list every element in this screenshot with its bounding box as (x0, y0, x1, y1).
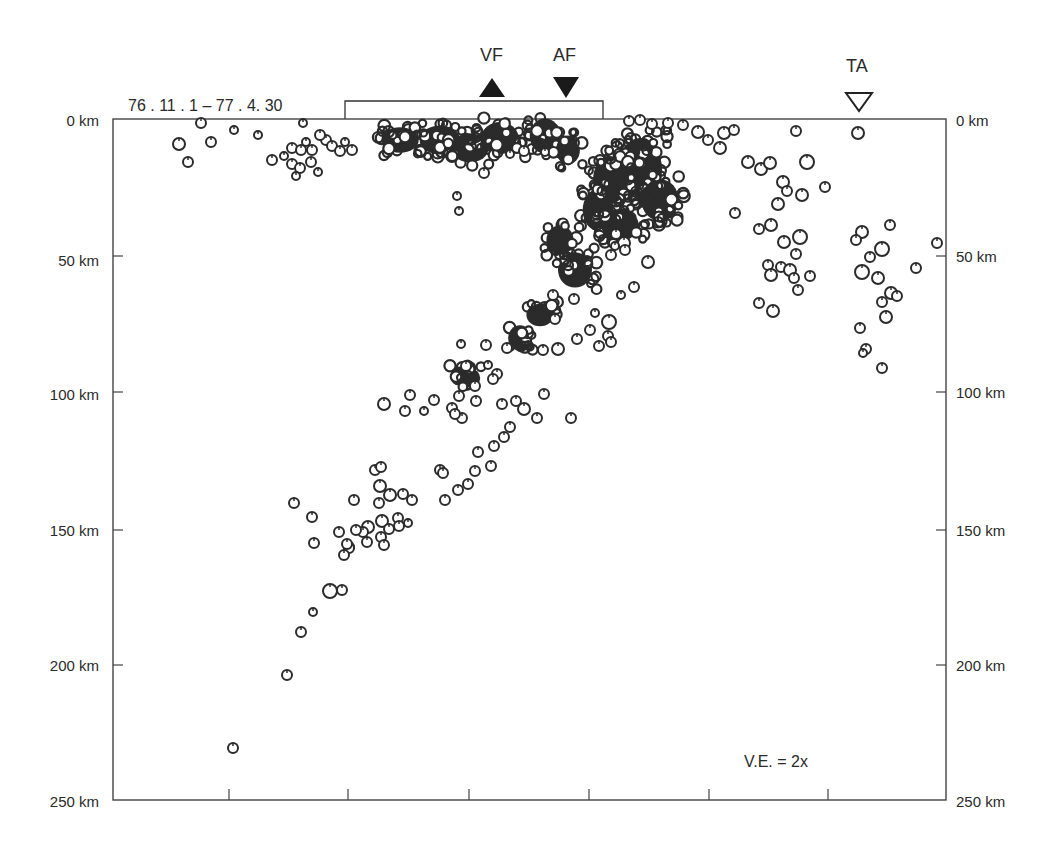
hypocenter-marker (591, 272, 600, 281)
hypocenter-marker (479, 168, 489, 178)
hypocenter-marker (309, 538, 319, 548)
hypocenter-marker (572, 334, 582, 344)
hypocenter-marker (730, 208, 740, 218)
hypocenter-marker (852, 127, 864, 139)
hypocenter-marker (772, 198, 784, 210)
hypocenter-marker (484, 361, 492, 369)
hypocenter-marker (585, 325, 595, 335)
hypocenter-marker (470, 381, 480, 391)
hypocenter-marker (765, 269, 777, 281)
hypocenter-marker (506, 150, 514, 158)
hypocenter-marker (502, 343, 512, 353)
y-label-right-250: 250 km (956, 793, 1005, 810)
hypocenter-marker (875, 242, 889, 256)
date-range-label: 76 . 11 . 1 – 77 . 4. 30 (128, 97, 283, 114)
hypocenter-marker (647, 119, 657, 129)
hypocenter-marker (561, 222, 569, 230)
hypocenter-marker (631, 227, 641, 237)
y-axis-right (936, 256, 946, 665)
hypocenter-marker (455, 207, 463, 215)
hypocenter-marker (341, 138, 349, 146)
dense-hypocenter-clusters (373, 113, 690, 392)
hypocenter-marker (635, 115, 645, 125)
hypocenter-marker (877, 363, 887, 373)
hypocenter-marker (398, 489, 408, 499)
y-label-100: 100 km (50, 386, 99, 403)
hypocenter-marker (855, 265, 869, 279)
filled-triangle-down-icon (553, 77, 579, 98)
hypocenter-marker (754, 298, 764, 308)
hypocenter-marker (307, 145, 317, 155)
hypocenter-marker (337, 585, 347, 595)
hypocenter-marker (635, 158, 644, 167)
hypocenter-marker (575, 223, 584, 232)
y-labels-left: 0 km 50 km 100 km 150 km 200 km 250 km (50, 112, 99, 810)
y-label-right-100: 100 km (956, 384, 1005, 401)
hypocenter-marker (859, 349, 867, 357)
hypocenter-marker (292, 172, 300, 180)
hypocenter-marker (606, 337, 616, 347)
open-triangle-down-icon (846, 93, 872, 111)
hypocenter-marker (347, 145, 357, 155)
hypocenter-marker (892, 291, 902, 301)
hypocenter-marker (517, 328, 528, 339)
hypocenter-marker (499, 432, 509, 442)
hypocenter-marker (560, 137, 569, 146)
hypocenter-marker (505, 422, 515, 432)
hypocenter-marker (306, 157, 316, 167)
hypocenter-marker (591, 309, 599, 317)
hypocenter-marker (546, 300, 558, 312)
hypocenter-marker (519, 146, 529, 156)
hypocenter-marker (692, 126, 704, 138)
hypocenter-marker (531, 125, 543, 137)
hypocenter-marker (567, 239, 576, 248)
hypocenter-marker (280, 152, 288, 160)
hypocenter-marker (228, 743, 238, 753)
hypocenter-marker (450, 409, 460, 419)
hypocenter-marker (911, 263, 921, 273)
y-label-right-0: 0 km (956, 112, 989, 129)
hypocenter-marker (461, 361, 471, 371)
hypocenter-marker (394, 521, 404, 531)
hypocenter-marker (782, 186, 792, 196)
vertical-exaggeration-label: V.E. = 2x (744, 753, 808, 770)
hypocenter-marker (764, 157, 776, 169)
hypocenter-marker (447, 151, 457, 161)
y-label-200: 200 km (50, 657, 99, 674)
hypocenter-marker (470, 466, 480, 476)
hypocenter-marker (444, 360, 455, 371)
hypocenter-marker (478, 113, 489, 124)
y-label-right-50: 50 km (956, 248, 997, 265)
hypocenter-marker (440, 495, 450, 505)
hypocenter-marker (429, 395, 439, 405)
hypocenter-marker (467, 161, 477, 171)
hypocenter-marker (453, 192, 461, 200)
hypocenter-marker (282, 670, 292, 680)
hypocenter-marker (196, 118, 206, 128)
hypocenter-marker (384, 489, 396, 501)
marker-vf: VF (479, 45, 505, 97)
hypocenter-marker (378, 398, 390, 410)
hypocenter-marker (629, 282, 639, 292)
hypocenter-marker (351, 525, 361, 535)
hypocenter-marker (206, 137, 216, 147)
hypocenter-marker (384, 524, 394, 534)
hypocenter-marker (650, 139, 658, 147)
marker-af-label: AF (553, 45, 576, 65)
hypocenter-marker (538, 345, 548, 355)
hypocenter-marker (729, 125, 739, 135)
hypocenter-marker (400, 406, 410, 416)
hypocenter-marker (453, 485, 463, 495)
marker-vf-label: VF (480, 45, 503, 65)
hypocenter-marker (400, 132, 411, 143)
hypocenter-marker (314, 168, 322, 176)
plot-frame (113, 119, 946, 800)
filled-triangle-up-icon (479, 78, 505, 97)
hypocenter-marker (379, 540, 389, 550)
hypocenter-marker (820, 182, 830, 192)
hypocenter-marker (342, 539, 352, 549)
hypocenter-marker (459, 382, 468, 391)
hypocenter-marker (309, 608, 317, 616)
hypocenter-marker (649, 171, 657, 179)
hypocenter-marker (611, 229, 621, 239)
